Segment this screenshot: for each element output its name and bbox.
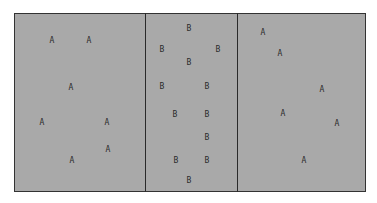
point-label-middle: B — [160, 83, 165, 91]
point-label-left: A — [69, 84, 74, 92]
point-label-right: A — [320, 86, 325, 94]
point-label-left: A — [105, 119, 110, 127]
point-label-middle: B — [216, 46, 221, 54]
point-label-middle: B — [205, 157, 210, 165]
point-label-right: A — [335, 120, 340, 128]
point-label-middle: B — [187, 59, 192, 67]
point-label-middle: B — [187, 25, 192, 33]
divider-right — [237, 13, 238, 192]
point-label-middle: B — [205, 134, 210, 142]
point-label-left: A — [50, 37, 55, 45]
point-label-left: A — [70, 157, 75, 165]
point-label-middle: B — [205, 83, 210, 91]
point-label-middle: B — [173, 111, 178, 119]
point-label-middle: B — [187, 177, 192, 185]
point-label-left: A — [106, 146, 111, 154]
divider-left — [145, 13, 146, 192]
point-label-right: A — [302, 157, 307, 165]
point-label-right: A — [261, 29, 266, 37]
point-label-left: A — [40, 119, 45, 127]
point-label-middle: B — [160, 46, 165, 54]
diagram-frame — [14, 13, 366, 192]
point-label-right: A — [281, 110, 286, 118]
point-label-middle: B — [174, 157, 179, 165]
point-label-middle: B — [205, 111, 210, 119]
point-label-right: A — [278, 50, 283, 58]
point-label-left: A — [87, 37, 92, 45]
